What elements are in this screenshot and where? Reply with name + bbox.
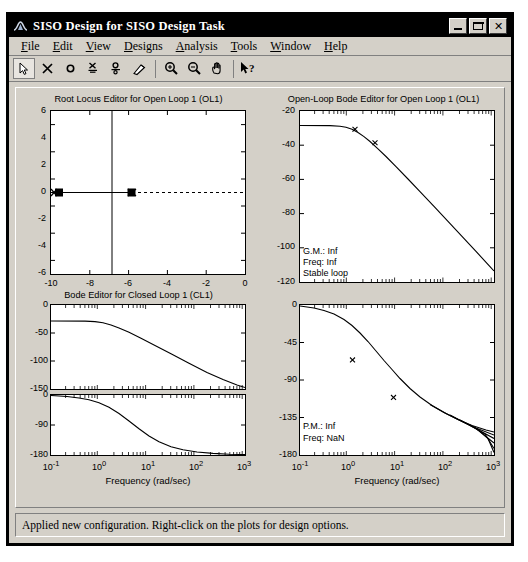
minimize-button[interactable]: [449, 18, 467, 34]
gain-margin-annotation-line-2: Freq: Inf: [303, 257, 337, 268]
root-locus-editor-panel[interactable]: Root Locus Editor for Open Loop 1 (OL1): [16, 88, 261, 293]
olb-ytick-3: -80: [267, 207, 295, 217]
olb-ytick-4: -100: [267, 241, 295, 251]
add-complex-pole-icon[interactable]: [82, 58, 104, 79]
toolbar-separator-2: [233, 60, 234, 78]
olb-ytick-5: -120: [267, 276, 295, 286]
menu-item-help[interactable]: Help: [318, 38, 354, 55]
closed-loop-phase-svg: [51, 395, 245, 455]
window-title: SISO Design for SISO Design Task: [33, 19, 449, 34]
clb-mag-ytick-1: -50: [20, 327, 48, 337]
closed-loop-magnitude-svg: [51, 305, 245, 389]
root-locus-title: Root Locus Editor for Open Loop 1 (OL1): [16, 94, 261, 104]
clb-xtick-4: 103: [233, 459, 255, 472]
rl-xtick-4: -2: [196, 278, 216, 288]
pan-hand-icon[interactable]: [206, 58, 228, 79]
clb-xtick-0: 10-1: [40, 459, 62, 472]
menu-item-edit[interactable]: Edit: [47, 38, 80, 55]
delete-pole-zero-icon[interactable]: [36, 58, 58, 79]
gain-margin-annotation-line-3: Stable loop: [303, 268, 348, 279]
add-lead-lag-icon[interactable]: [128, 58, 150, 79]
olp-xtick-4: 103: [482, 459, 504, 472]
olp-ytick-3: -135: [267, 412, 297, 422]
root-locus-plot-svg: [51, 111, 245, 274]
toolbar-separator-1: [155, 60, 156, 78]
clb-mag-ytick-0: 0: [20, 299, 48, 309]
context-help-icon[interactable]: ?: [238, 58, 260, 79]
rl-ytick-0: -6: [26, 267, 46, 277]
rl-ytick-1: -4: [26, 240, 46, 250]
menu-item-file[interactable]: File: [15, 38, 47, 55]
gain-margin-annotation-line-1: G.M.: Inf: [303, 246, 338, 257]
add-pole-icon[interactable]: [59, 58, 81, 79]
title-bar: SISO Design for SISO Design Task ✕: [9, 15, 511, 37]
clb-ph-ytick-0: 0: [20, 389, 48, 399]
open-loop-bode-title: Open-Loop Bode Editor for Open Loop 1 (O…: [261, 94, 506, 104]
root-locus-axes[interactable]: [50, 110, 246, 275]
menu-item-tools[interactable]: Tools: [225, 38, 265, 55]
rl-ytick-3: 0: [26, 186, 46, 196]
clb-ph-ytick-2: -180: [20, 449, 48, 459]
zoom-in-icon[interactable]: [160, 58, 182, 79]
clb-mag-ytick-2: -100: [20, 355, 48, 365]
olp-ytick-0: 0: [267, 299, 297, 309]
olp-ytick-4: -180: [267, 449, 297, 459]
clb-xtick-2: 101: [137, 459, 159, 472]
menu-item-view[interactable]: View: [80, 38, 118, 55]
olp-xtick-1: 100: [337, 459, 359, 472]
window-controls: ✕: [449, 18, 509, 34]
close-button[interactable]: ✕: [489, 18, 507, 34]
olb-ytick-2: -60: [267, 173, 295, 183]
clb-ph-ytick-1: -90: [20, 419, 48, 429]
rl-xtick-2: -6: [118, 278, 138, 288]
rl-xtick-5: 0: [235, 278, 255, 288]
toolbar: ?: [9, 56, 511, 82]
clb-xtick-1: 100: [88, 459, 110, 472]
olp-xtick-3: 102: [434, 459, 456, 472]
open-loop-bode-phase-panel[interactable]: P.M.: Inf Freq: NaN 0 -45 -90 -135 -180 …: [261, 288, 506, 508]
clb-xtick-3: 102: [185, 459, 207, 472]
phase-margin-annotation-line-1: P.M.: Inf: [303, 421, 335, 432]
closed-loop-bode-phase-axes[interactable]: [50, 394, 246, 456]
menu-item-window[interactable]: Window: [264, 38, 318, 55]
rl-ytick-2: -2: [26, 213, 46, 223]
svg-text:?: ?: [249, 62, 255, 74]
rl-xtick-1: -8: [80, 278, 100, 288]
add-complex-zero-icon[interactable]: [105, 58, 127, 79]
menu-item-analysis[interactable]: Analysis: [170, 38, 225, 55]
menu-bar: File Edit View Designs Analysis Tools Wi…: [9, 37, 511, 56]
menu-item-designs[interactable]: Designs: [118, 38, 170, 55]
rl-xtick-3: -4: [157, 278, 177, 288]
olb-ytick-0: -20: [267, 105, 295, 115]
open-loop-bode-editor-panel[interactable]: Open-Loop Bode Editor for Open Loop 1 (O…: [261, 88, 506, 293]
olp-ytick-1: -45: [267, 337, 297, 347]
olp-xtick-2: 101: [386, 459, 408, 472]
olp-xtick-0: 10-1: [289, 459, 311, 472]
closed-loop-bode-magnitude-axes[interactable]: [50, 304, 246, 390]
matlab-membrane-icon: [13, 19, 28, 34]
plot-canvas-area: Root Locus Editor for Open Loop 1 (OL1): [15, 87, 505, 508]
maximize-button[interactable]: [469, 18, 487, 34]
rl-ytick-6: 6: [26, 105, 46, 115]
closed-loop-bode-editor-panel[interactable]: Bode Editor for Closed Loop 1 (CL1): [16, 288, 261, 508]
status-bar: Applied new configuration. Right-click o…: [15, 513, 505, 537]
rl-ytick-4: 2: [26, 159, 46, 169]
siso-design-tool-screenshot: SISO Design for SISO Design Task ✕ File …: [0, 0, 528, 562]
closed-loop-bode-title: Bode Editor for Closed Loop 1 (CL1): [16, 290, 261, 300]
close-icon: ✕: [490, 19, 506, 33]
closed-loop-xaxis-label: Frequency (rad/sec): [50, 475, 246, 486]
open-loop-phase-xaxis-label: Frequency (rad/sec): [299, 475, 495, 486]
rl-ytick-5: 4: [26, 132, 46, 142]
status-message: Applied new configuration. Right-click o…: [22, 519, 349, 531]
olp-ytick-2: -90: [267, 374, 297, 384]
arrow-pointer-icon[interactable]: [13, 58, 35, 79]
zoom-out-icon[interactable]: [183, 58, 205, 79]
application-window: SISO Design for SISO Design Task ✕ File …: [6, 12, 514, 546]
rl-xtick-0: -10: [41, 278, 61, 288]
phase-margin-annotation-line-2: Freq: NaN: [303, 433, 345, 444]
olb-ytick-1: -40: [267, 139, 295, 149]
